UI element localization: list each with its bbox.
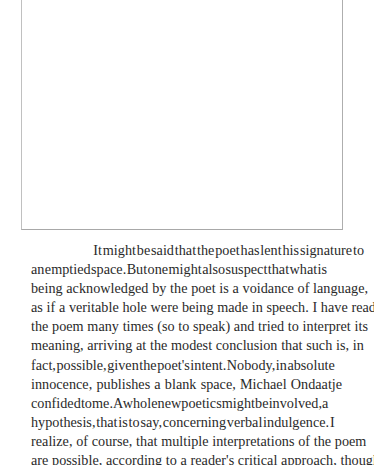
word: But	[127, 261, 148, 277]
word: might	[103, 242, 136, 258]
word: one	[148, 261, 169, 277]
word: realize,	[31, 433, 73, 449]
word: the	[31, 318, 48, 334]
word: poetics	[181, 395, 221, 411]
word: emptied	[45, 261, 91, 277]
word: poet	[191, 280, 216, 296]
word: by	[152, 280, 166, 296]
word: suspect	[225, 261, 267, 277]
text-line: confided to me. A whole new poetics migh…	[9, 394, 364, 413]
line-text: the poem many times (so to speak) and tr…	[9, 317, 368, 336]
word: publishes	[96, 376, 150, 392]
text-line: being acknowledged by the poet is a void…	[9, 279, 364, 298]
word: poet's	[157, 357, 190, 373]
word: as	[31, 299, 43, 315]
word: in	[252, 299, 263, 315]
word: It	[93, 242, 102, 258]
line-text: fact, possible, given the poet's intent.…	[9, 356, 335, 375]
word: such	[306, 337, 332, 353]
text-line: as if a veritable hole were being made i…	[9, 298, 364, 317]
text-line: hypothesis, that is to say, concerning v…	[9, 413, 364, 432]
word: that	[281, 337, 302, 353]
word: the	[314, 433, 331, 449]
text-line: innocence, publishes a blank space, Mich…	[9, 375, 364, 394]
word: space,	[201, 376, 236, 392]
word: has	[241, 242, 260, 258]
word: to	[129, 414, 140, 430]
word: hypothesis,	[31, 414, 95, 430]
word: modest	[171, 337, 212, 353]
word: be	[255, 395, 268, 411]
word: to	[353, 242, 364, 258]
word: to	[166, 452, 177, 465]
word: indulgence.	[263, 414, 329, 430]
word: that	[175, 242, 196, 258]
word: new	[158, 395, 182, 411]
line-text: realize, of course, that multiple interp…	[9, 432, 366, 451]
word: is	[318, 261, 328, 277]
word: be	[137, 242, 150, 258]
word: the	[150, 337, 167, 353]
line-text: are possible, according to a reader's cr…	[9, 451, 374, 465]
word: a	[233, 280, 239, 296]
word: Michael	[240, 376, 287, 392]
word: of	[76, 433, 88, 449]
line-text: innocence, publishes a blank space, Mich…	[9, 375, 342, 394]
word: involved,	[269, 395, 322, 411]
word: absolute	[287, 357, 334, 373]
word: poem	[52, 318, 84, 334]
text-line: meaning, arriving at the modest conclusi…	[9, 336, 364, 355]
word: is	[118, 414, 128, 430]
word: meaning,	[31, 337, 84, 353]
word: to	[288, 318, 299, 334]
word: blank	[165, 376, 197, 392]
word: approach,	[281, 452, 337, 465]
word: also	[202, 261, 225, 277]
word: lent	[260, 242, 281, 258]
line-text: as if a veritable hole were being made i…	[9, 298, 374, 317]
text-line: realize, of course, that multiple interp…	[9, 432, 364, 451]
line-text: an emptied space. But one might also sus…	[9, 260, 327, 279]
word: of	[298, 433, 310, 449]
text-line: fact, possible, given the poet's intent.…	[9, 356, 364, 375]
word: the	[139, 357, 156, 373]
word: interpretations	[212, 433, 294, 449]
word: speak)	[193, 318, 230, 334]
book-page: It might be said that the poet has lent …	[0, 0, 374, 465]
word: poet	[215, 242, 240, 258]
word: might	[169, 261, 202, 277]
word: signature	[300, 242, 352, 258]
word: said	[151, 242, 174, 258]
paragraph-indent	[9, 241, 31, 260]
word: being	[182, 299, 214, 315]
word: I	[330, 414, 335, 430]
text-line: an emptied space. But one might also sus…	[9, 260, 364, 279]
word: reader's	[191, 452, 235, 465]
word: me.	[92, 395, 113, 411]
word: a	[181, 452, 187, 465]
blank-space-figure-frame	[21, 0, 343, 230]
word: hole	[122, 299, 147, 315]
word: veritable	[69, 299, 119, 315]
word: given	[107, 357, 139, 373]
word: poem	[335, 433, 367, 449]
word: that	[268, 261, 289, 277]
paragraph-lines: It might be said that the poet has lent …	[9, 241, 364, 465]
text-line: It might be said that the poet has lent …	[9, 241, 364, 260]
word: in	[353, 337, 364, 353]
word: A	[113, 395, 122, 411]
body-paragraph: It might be said that the poet has lent …	[9, 241, 364, 465]
text-line: are possible, according to a reader's cr…	[9, 451, 364, 465]
word: and	[234, 318, 255, 334]
word: to	[81, 395, 92, 411]
word: that	[96, 414, 117, 430]
word: the	[170, 280, 187, 296]
word: intent.	[190, 357, 226, 373]
word: acknowledged	[66, 280, 148, 296]
word: that	[136, 433, 157, 449]
word: Nobody,	[227, 357, 275, 373]
word: read	[351, 299, 374, 315]
line-text: It might be said that the poet has lent …	[71, 241, 364, 260]
text-line: the poem many times (so to speak) and tr…	[9, 317, 364, 336]
line-text: hypothesis, that is to say, concerning v…	[9, 413, 335, 432]
